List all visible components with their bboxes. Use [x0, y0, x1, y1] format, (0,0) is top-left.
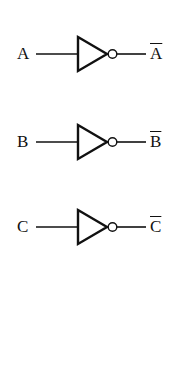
output-label-c-bar: C [150, 218, 161, 236]
output-label-b-bar: B [150, 133, 161, 151]
not-gate-c: C C [0, 207, 187, 247]
output-label-a-bar: A [150, 45, 162, 63]
not-gate-a: A A [0, 34, 187, 74]
not-gate-b: B B [0, 122, 187, 162]
